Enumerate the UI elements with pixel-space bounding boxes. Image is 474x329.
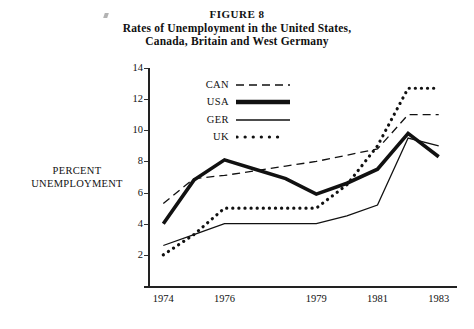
series-line-usa bbox=[163, 133, 438, 223]
y-tick-label: 12 bbox=[133, 94, 144, 105]
figure-number: FIGURE 8 bbox=[0, 8, 474, 22]
y-axis-label: PERCENT UNEMPLOYMENT bbox=[14, 165, 140, 190]
x-axis-line bbox=[144, 286, 457, 288]
x-tick-label: 1976 bbox=[214, 294, 235, 305]
x-tick-label: 1979 bbox=[306, 294, 327, 305]
x-tick-label: 1983 bbox=[428, 294, 449, 305]
y-tick-label: 6 bbox=[138, 187, 143, 198]
figure-container: FIGURE 8 Rates of Unemployment in the Un… bbox=[0, 0, 474, 329]
series-lines bbox=[148, 68, 454, 286]
series-line-ger bbox=[163, 138, 438, 245]
y-tick-label: 8 bbox=[138, 156, 143, 167]
y-tick-label: 14 bbox=[133, 63, 144, 74]
y-axis-label-line-1: PERCENT bbox=[14, 165, 140, 178]
x-tick-label: 1974 bbox=[153, 294, 174, 305]
y-tick-label: 2 bbox=[138, 250, 143, 261]
figure-title-block: FIGURE 8 Rates of Unemployment in the Un… bbox=[0, 8, 474, 49]
plot-area: 2468101214 19741976197919811983 bbox=[148, 68, 454, 286]
x-tick-label: 1981 bbox=[367, 294, 388, 305]
y-tick-label: 4 bbox=[138, 218, 143, 229]
series-line-can bbox=[163, 115, 438, 204]
y-tick-label: 10 bbox=[133, 125, 144, 136]
figure-title-line-2: Canada, Britain and West Germany bbox=[0, 35, 474, 49]
figure-title-line-1: Rates of Unemployment in the United Stat… bbox=[0, 22, 474, 36]
y-axis-label-line-2: UNEMPLOYMENT bbox=[14, 178, 140, 191]
